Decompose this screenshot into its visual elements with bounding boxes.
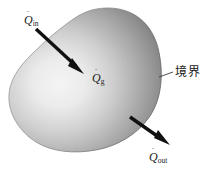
q-symbol-in: Q˙ <box>24 14 33 26</box>
subscript-out: out <box>158 156 168 165</box>
subscript-gen: g <box>101 77 105 86</box>
thermodynamics-diagram: Q˙in Q˙g Q˙out 境界 <box>0 0 217 177</box>
label-heat-generation: Q˙g <box>92 72 105 84</box>
q-symbol-gen: Q˙ <box>92 72 101 84</box>
label-heat-out: Q˙out <box>149 151 168 163</box>
label-boundary: 境界 <box>175 66 200 78</box>
subscript-in: in <box>33 19 39 28</box>
overdot-in: ˙ <box>27 10 30 19</box>
label-heat-in: Q˙in <box>24 14 39 26</box>
overdot-gen: ˙ <box>95 68 98 77</box>
control-volume-blob <box>9 8 161 152</box>
overdot-out: ˙ <box>152 147 155 156</box>
q-symbol-out: Q˙ <box>149 151 158 163</box>
